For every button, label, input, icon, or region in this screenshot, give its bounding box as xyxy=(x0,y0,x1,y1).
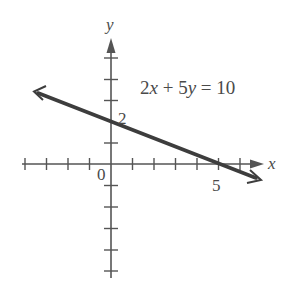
equation-mid: + 5 xyxy=(158,77,188,98)
y-axis-label: y xyxy=(106,16,114,33)
equation-label: 2x + 5y = 10 xyxy=(140,78,235,97)
equation-suffix: = 10 xyxy=(196,77,235,98)
x-tick-label-5: 5 xyxy=(212,177,221,194)
x-axis-arrowhead-icon xyxy=(250,160,264,169)
y-tick-label-2: 2 xyxy=(118,110,127,127)
coordinate-plane xyxy=(0,0,283,293)
equation-x: x xyxy=(150,77,158,98)
x-axis-label: x xyxy=(268,155,276,172)
equation-prefix: 2 xyxy=(140,77,150,98)
graph-line xyxy=(38,93,256,178)
equation-y: y xyxy=(188,77,196,98)
y-axis-arrowhead-icon xyxy=(107,38,116,53)
origin-label: 0 xyxy=(97,166,106,183)
